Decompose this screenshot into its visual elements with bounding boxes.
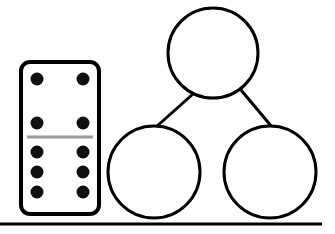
connector-right (241, 90, 272, 127)
part-right-circle[interactable] (224, 126, 316, 218)
whole-circle[interactable] (168, 8, 258, 98)
part-left-circle[interactable] (108, 126, 200, 218)
pip-icon (77, 166, 90, 179)
pip-icon (31, 117, 44, 130)
pip-icon (77, 146, 90, 159)
pip-icon (77, 186, 90, 199)
pip-icon (31, 186, 44, 199)
pip-icon (77, 117, 90, 130)
domino (21, 62, 99, 214)
connector-left (156, 94, 193, 127)
pip-icon (31, 166, 44, 179)
pip-icon (31, 146, 44, 159)
number-bond (108, 8, 316, 218)
number-bond-diagram (0, 0, 335, 234)
pip-icon (77, 73, 90, 86)
pip-icon (31, 73, 44, 86)
